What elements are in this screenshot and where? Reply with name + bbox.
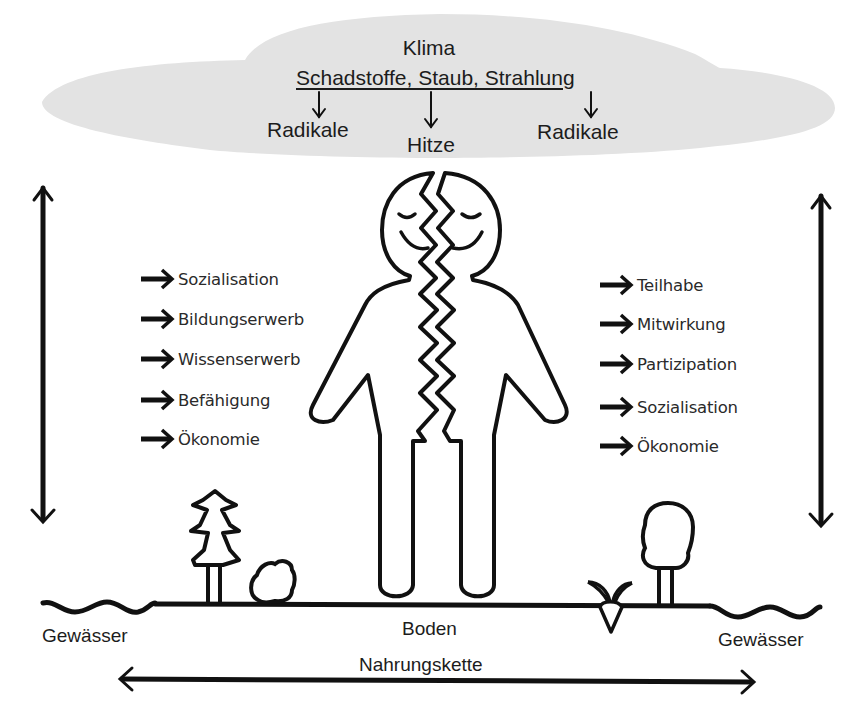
right-list-item: Ökonomie: [599, 434, 719, 458]
right-list-label: Mitwirkung: [637, 315, 726, 334]
human-figure: [311, 173, 567, 596]
left-water-wave: [43, 602, 155, 612]
left-list-item: Bildungserwerb: [140, 307, 304, 331]
figure-left-half: [311, 173, 437, 596]
ground-line: [43, 602, 820, 617]
bold-arrow-right-icon: [140, 347, 176, 371]
left-list-label: Befähigung: [178, 391, 270, 410]
bold-arrow-right-icon: [140, 388, 176, 412]
deciduous-tree-icon: [643, 503, 693, 605]
water-label-left: Gewässer: [42, 626, 128, 645]
right-list-label: Ökonomie: [637, 437, 719, 456]
left-list-item: Sozialisation: [140, 267, 279, 291]
right-vertical-double-arrow: [810, 196, 832, 526]
bold-arrow-right-icon: [599, 273, 635, 297]
left-list-item: Wissenserwerb: [140, 347, 300, 371]
soil-label: Boden: [402, 619, 457, 638]
right-list-item: Sozialisation: [599, 395, 738, 419]
figure-right-half: [437, 173, 567, 596]
climate-title: Klima: [0, 37, 858, 58]
left-list-label: Bildungserwerb: [178, 310, 304, 329]
right-list-item: Teilhabe: [599, 273, 703, 297]
left-list-label: Wissenserwerb: [178, 350, 300, 369]
bold-arrow-right-icon: [599, 395, 635, 419]
right-water-wave: [710, 606, 820, 617]
bold-arrow-right-icon: [140, 307, 176, 331]
effect-radicals-right: Radikale: [537, 121, 619, 142]
bold-arrow-right-icon: [599, 434, 635, 458]
right-list-label: Partizipation: [637, 355, 737, 374]
bold-arrow-right-icon: [140, 267, 176, 291]
left-list-item: Befähigung: [140, 388, 270, 412]
left-vertical-double-arrow: [32, 188, 54, 522]
effect-heat: Hitze: [407, 134, 455, 155]
bush-icon: [251, 561, 295, 602]
bold-arrow-right-icon: [140, 427, 176, 451]
right-list-item: Partizipation: [599, 352, 737, 376]
effect-radicals-left: Radikale: [267, 119, 349, 140]
left-list-item: Ökonomie: [140, 427, 260, 451]
bold-arrow-right-icon: [599, 352, 635, 376]
right-list-label: Sozialisation: [637, 398, 738, 417]
fir-tree-icon: [191, 491, 239, 603]
left-list-label: Sozialisation: [178, 270, 279, 289]
water-label-right: Gewässer: [718, 630, 804, 649]
right-list-label: Teilhabe: [637, 276, 703, 295]
food-chain-label: Nahrungskette: [359, 655, 483, 674]
left-list-label: Ökonomie: [178, 430, 260, 449]
pollutant-sources: Schadstoffe, Staub, Strahlung: [296, 67, 575, 88]
bold-arrow-right-icon: [599, 312, 635, 336]
right-list-item: Mitwirkung: [599, 312, 726, 336]
